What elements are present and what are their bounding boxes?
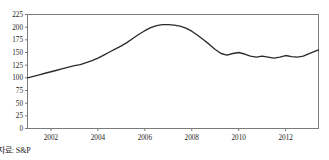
x-tick-label: 2004 [91,134,106,142]
y-tick-label: 175 [12,36,23,44]
y-tick-label: 0 [19,125,23,133]
x-axis: 200220042006200820102012 [44,129,293,142]
y-tick-label: 225 [12,11,23,19]
y-tick-label: 25 [16,112,24,120]
y-tick-label: 50 [16,100,24,108]
line-chart: 0255075100125150175200225 20022004200620… [0,0,329,160]
x-tick-label: 2010 [232,134,247,142]
x-tick-label: 2002 [44,134,59,142]
y-axis: 0255075100125150175200225 [12,11,27,133]
y-tick-label: 200 [12,24,23,32]
source-caption: 자료: S&P [0,144,31,155]
x-tick-label: 2006 [138,134,153,142]
x-tick-label: 2012 [278,134,293,142]
chart-figure: 0255075100125150175200225 20022004200620… [0,0,329,160]
price-index-series [28,25,319,78]
y-tick-label: 100 [12,74,23,82]
y-tick-label: 125 [12,62,23,70]
x-tick-label: 2008 [185,134,200,142]
y-tick-label: 150 [12,49,23,57]
plot-frame [28,15,319,129]
y-tick-label: 75 [16,87,24,95]
series-line [28,25,319,78]
